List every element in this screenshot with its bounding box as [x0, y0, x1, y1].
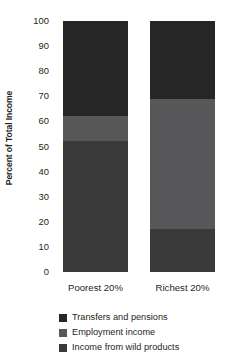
y-axis-tick-label: 40: [18, 167, 49, 177]
legend-entry[interactable]: Employment income: [59, 325, 245, 340]
x-axis-tick-label: Richest 20%: [139, 282, 226, 294]
y-axis-title-text: Percent of Total Income: [4, 90, 14, 184]
chart-legend: Transfers and pensionsEmployment incomeI…: [59, 310, 245, 355]
y-axis-tick-label: 70: [18, 91, 49, 101]
legend-swatch-icon: [59, 329, 67, 337]
bar-group: [63, 21, 128, 272]
bar-segment[interactable]: [63, 21, 128, 116]
bar-stack[interactable]: [150, 21, 215, 272]
bar-stack[interactable]: [63, 21, 128, 272]
y-axis-tick-label: 80: [18, 66, 49, 76]
bar-segment[interactable]: [63, 141, 128, 272]
y-axis-tick-label: 90: [18, 41, 49, 51]
y-axis-tick-label: 50: [18, 142, 49, 152]
bar-group: [150, 21, 215, 272]
y-axis-tick-label: 10: [18, 242, 49, 252]
y-axis-tick-labels: 0102030405060708090100: [18, 21, 49, 272]
y-axis-title: Percent of Total Income: [0, 0, 18, 275]
bar-segment[interactable]: [150, 99, 215, 230]
x-axis-tick-labels: Poorest 20%Richest 20%: [52, 282, 226, 296]
x-axis-tick-label: Poorest 20%: [52, 282, 139, 294]
legend-swatch-icon: [59, 314, 67, 322]
bar-segment[interactable]: [150, 21, 215, 99]
stacked-bar-chart: Percent of Total Income 0102030405060708…: [0, 0, 249, 364]
legend-entry[interactable]: Income from wild products: [59, 340, 245, 355]
y-axis-tick-label: 60: [18, 116, 49, 126]
legend-swatch-icon: [59, 344, 67, 352]
legend-label: Transfers and pensions: [72, 312, 168, 323]
legend-entry[interactable]: Transfers and pensions: [59, 310, 245, 325]
y-axis-tick-label: 20: [18, 217, 49, 227]
bar-segment[interactable]: [63, 116, 128, 141]
y-axis-tick-label: 30: [18, 192, 49, 202]
y-axis-tick-label: 100: [18, 16, 49, 26]
legend-label: Income from wild products: [72, 342, 179, 353]
y-axis-tick-label: 0: [18, 267, 49, 277]
legend-label: Employment income: [72, 327, 155, 338]
plot-area: [52, 21, 226, 272]
bar-segment[interactable]: [150, 229, 215, 272]
